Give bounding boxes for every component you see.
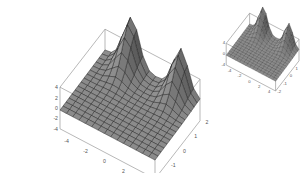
y-tick-label: 1 <box>194 133 197 139</box>
x-tick-label: 2 <box>258 84 261 89</box>
y-tick-label: -2 <box>277 89 281 94</box>
x-tick-label: 0 <box>103 158 106 164</box>
z-tick-label: 4 <box>223 40 226 45</box>
z-tick-label: 4 <box>55 84 58 90</box>
x-tick-label: -4 <box>228 68 232 73</box>
y-tick-label: -1 <box>171 162 176 168</box>
z-tick-label: 0 <box>55 105 58 111</box>
surface-plots: -4-2024-2-1012420-2-4-4-2024-2-101240-4 <box>0 0 301 173</box>
z-tick-label: -4 <box>221 62 225 67</box>
y-tick-label: 1 <box>296 66 299 71</box>
y-tick-label: 0 <box>183 148 186 154</box>
y-tick-label: -1 <box>283 81 287 86</box>
x-tick-label: -2 <box>83 148 88 154</box>
x-tick-label: 0 <box>248 79 251 84</box>
z-tick-label: 2 <box>55 95 58 101</box>
y-tick-label: 2 <box>206 119 209 125</box>
z-tick-label: -2 <box>53 115 58 121</box>
surface-plot-1: -4-2024-2-1012420-2-4 <box>53 17 208 173</box>
z-tick-label: -4 <box>53 126 58 132</box>
x-tick-label: -2 <box>238 73 242 78</box>
z-tick-label: 0 <box>223 51 226 56</box>
x-tick-label: -4 <box>64 138 69 144</box>
x-tick-label: 4 <box>268 89 271 94</box>
surface-plot-2: -4-2024-2-101240-4 <box>221 7 301 94</box>
y-tick-label: 0 <box>290 73 293 78</box>
x-tick-label: 2 <box>122 168 125 173</box>
